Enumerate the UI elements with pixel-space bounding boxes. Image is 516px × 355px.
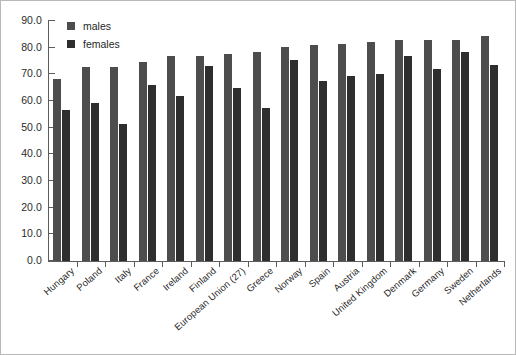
legend-item-males: males xyxy=(67,18,120,33)
x-axis-tick-mark xyxy=(476,261,477,267)
bar-males xyxy=(224,54,232,261)
y-axis-tick-label: 40.0 xyxy=(21,147,42,159)
bar-females xyxy=(433,69,441,261)
bar-group xyxy=(333,21,362,261)
bar-females xyxy=(233,88,241,261)
bar-females xyxy=(148,85,156,261)
bar-group xyxy=(77,21,106,261)
plot-area: 0.010.020.030.040.050.060.070.080.090.0 xyxy=(48,21,504,261)
x-axis-tick-mark xyxy=(77,261,78,267)
bar-males xyxy=(139,62,147,261)
bar-group xyxy=(191,21,220,261)
bar-males xyxy=(395,40,403,261)
x-axis-category-label: Hungary xyxy=(41,265,76,297)
bar-females xyxy=(176,96,184,261)
bar-females xyxy=(376,74,384,261)
bar-group xyxy=(276,21,305,261)
x-axis-tick-mark xyxy=(504,261,505,267)
x-axis-tick-mark xyxy=(305,261,306,267)
x-axis-tick-mark xyxy=(333,261,334,267)
y-axis-tick-label: 0.0 xyxy=(27,254,42,266)
x-axis-category-label: Greece xyxy=(244,265,275,294)
bar-females xyxy=(319,81,327,261)
y-axis-tick-label: 30.0 xyxy=(21,174,42,186)
bar-males xyxy=(452,40,460,261)
x-axis-category-label: France xyxy=(131,265,161,293)
x-axis-tick-mark xyxy=(419,261,420,267)
bar-males xyxy=(367,42,375,261)
bar-males xyxy=(253,52,261,261)
x-axis-category-label: Spain xyxy=(306,265,332,290)
y-axis-tick-label: 50.0 xyxy=(21,121,42,133)
y-axis-tick-label: 60.0 xyxy=(21,94,42,106)
bar-group xyxy=(447,21,476,261)
bar-group xyxy=(248,21,277,261)
bar-males xyxy=(167,56,175,261)
legend-item-females: females xyxy=(67,36,120,51)
y-axis-tick-label: 70.0 xyxy=(21,67,42,79)
x-axis-tick-mark xyxy=(162,261,163,267)
bar-males xyxy=(338,44,346,261)
bar-group xyxy=(305,21,334,261)
x-axis-tick-mark xyxy=(390,261,391,267)
y-axis-tick-label: 20.0 xyxy=(21,201,42,213)
x-axis-category-label: Ireland xyxy=(160,265,190,293)
bar-group xyxy=(476,21,505,261)
x-axis-tick-mark xyxy=(248,261,249,267)
bar-males xyxy=(82,67,90,261)
bar-chart-figure: 0.010.020.030.040.050.060.070.080.090.0 … xyxy=(0,0,516,355)
bar-group xyxy=(162,21,191,261)
bar-females xyxy=(119,124,127,261)
x-axis-tick-mark xyxy=(276,261,277,267)
bar-females xyxy=(290,60,298,261)
x-axis-tick-mark xyxy=(219,261,220,267)
legend-label: males xyxy=(83,20,111,32)
x-axis-tick-mark xyxy=(134,261,135,267)
x-axis-tick-mark xyxy=(362,261,363,267)
legend-label: females xyxy=(83,38,120,50)
y-axis-tick-label: 10.0 xyxy=(21,227,42,239)
bar-group xyxy=(390,21,419,261)
bar-females xyxy=(205,66,213,261)
y-axis-tick-label: 90.0 xyxy=(21,14,42,26)
bar-males xyxy=(196,56,204,261)
bar-females xyxy=(461,52,469,261)
x-axis-category-label: Norway xyxy=(272,265,304,295)
x-axis-tick-mark xyxy=(447,261,448,267)
x-axis-tick-mark xyxy=(105,261,106,267)
bar-females xyxy=(490,65,498,261)
bar-group xyxy=(362,21,391,261)
bar-males xyxy=(281,47,289,261)
x-axis-category-label: Poland xyxy=(74,265,104,293)
bar-females xyxy=(347,76,355,261)
bar-group xyxy=(134,21,163,261)
bar-females xyxy=(262,108,270,261)
legend-swatch-icon xyxy=(67,22,75,30)
bar-group xyxy=(419,21,448,261)
bar-group xyxy=(219,21,248,261)
bar-females xyxy=(62,110,70,261)
chart-legend: malesfemales xyxy=(67,18,120,54)
bar-group xyxy=(48,21,77,261)
x-axis-category-label: Italy xyxy=(112,265,133,285)
legend-swatch-icon xyxy=(67,40,75,48)
bar-females xyxy=(404,56,412,261)
x-axis-tick-mark xyxy=(191,261,192,267)
bar-females xyxy=(91,103,99,261)
bar-group xyxy=(105,21,134,261)
bar-males xyxy=(481,36,489,261)
bar-males xyxy=(53,79,61,261)
bar-males xyxy=(110,67,118,261)
bar-males xyxy=(310,45,318,261)
y-axis-tick-label: 80.0 xyxy=(21,41,42,53)
bar-males xyxy=(424,40,432,261)
